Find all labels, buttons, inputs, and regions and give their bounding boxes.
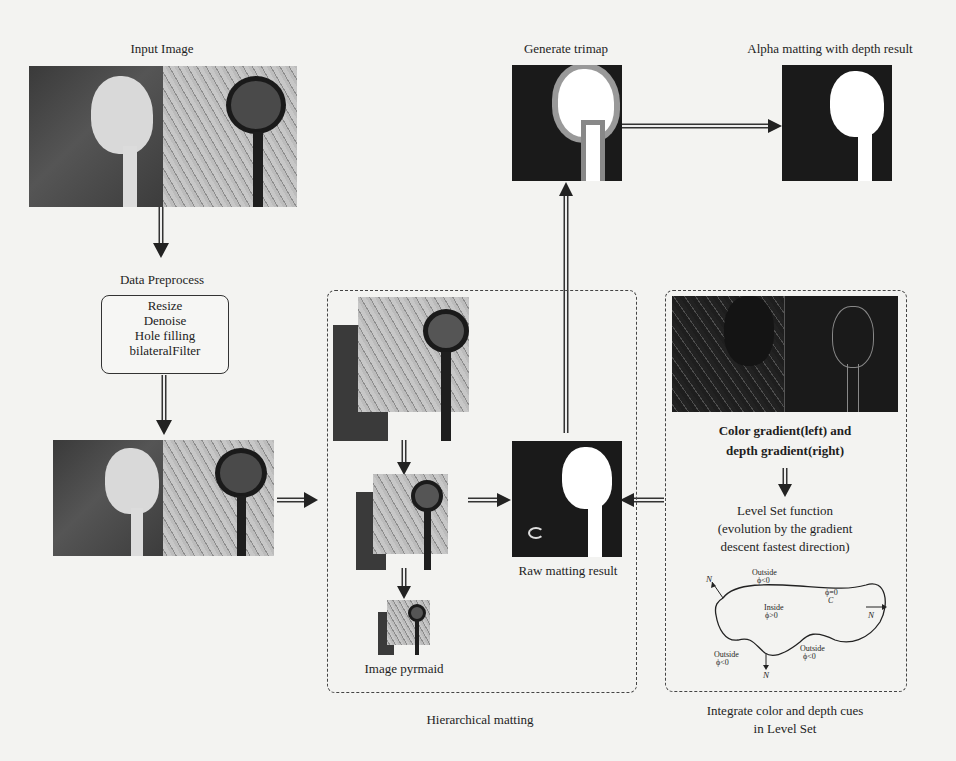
image-pyramid-label: Image pyrmaid [352,661,456,677]
raw-matting-image [512,441,622,557]
input-image-label: Input Image [110,41,214,57]
ls-curve-c: C [828,596,833,605]
level-set-caption-line2: (evolution by the gradient [672,521,898,537]
data-preprocess-label: Data Preprocess [102,272,222,288]
gradient-caption-line2: depth gradient(right) [672,443,898,459]
arrow-preprocess-to-processed [156,375,172,435]
preprocessed-image [53,440,274,556]
alpha-matting-image [782,65,892,181]
level-set-group-caption-line2: in Level Set [672,721,898,737]
level-set-caption-line3: descent fastest direction) [672,539,898,555]
hierarchical-matting-label: Hierarchical matting [400,712,560,728]
pyramid-level-2 [356,474,448,570]
step-hole-filling: Hole filling [102,328,228,343]
ls-outside-left-phi: ϕ<0 [716,658,729,667]
level-set-caption-line1: Level Set function [672,503,898,519]
generate-trimap-label: Generate trimap [502,41,630,57]
ls-normal-bottom: N [763,670,769,680]
alpha-matting-label: Alpha matting with depth result [730,41,930,57]
ls-outside-top-phi: ϕ<0 [757,576,770,585]
raw-matting-label: Raw matting result [504,563,632,579]
step-denoise: Denoise [102,313,228,328]
arrow-processed-to-hierarchical [277,492,318,508]
ls-normal-right: N [868,610,874,620]
pyramid-level-1 [333,297,469,441]
arrow-trimap-to-alpha [622,119,782,133]
ls-normal-topleft: N [706,574,712,584]
pyramid-level-3 [378,600,430,655]
gradient-image [672,296,898,412]
trimap-image [512,65,622,181]
step-resize: Resize [102,298,228,313]
gradient-caption-line1: Color gradient(left) and [672,423,898,439]
ls-outside-right-phi: ϕ<0 [803,652,816,661]
arrow-input-to-preprocess [153,207,169,258]
ls-inside-phi: ϕ>0 [765,611,778,620]
step-bilateral-filter: bilateralFilter [102,343,228,358]
preprocess-steps-box: Resize Denoise Hole filling bilateralFil… [101,295,229,374]
level-set-group-caption-line1: Integrate color and depth cues [672,703,898,719]
input-image [29,66,297,207]
